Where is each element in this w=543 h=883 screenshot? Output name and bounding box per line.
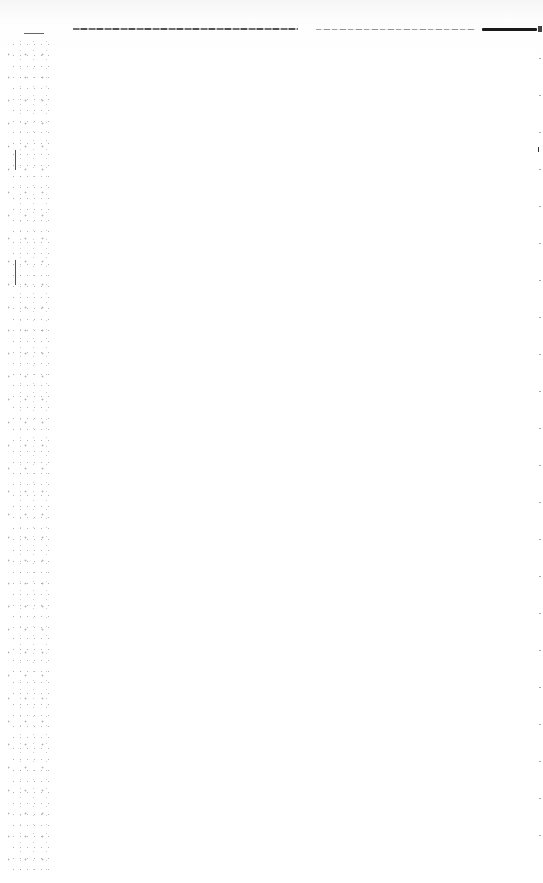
right-edge-scan-noise <box>538 40 542 840</box>
page-body <box>60 40 530 870</box>
header-rule-left <box>73 28 298 30</box>
left-edge-mark <box>15 150 16 170</box>
left-edge-mark <box>15 260 16 285</box>
header-rule-right <box>316 29 476 30</box>
header-rule-heavy-segment <box>482 28 537 31</box>
scanned-page <box>0 0 543 883</box>
right-edge-tick <box>538 147 539 152</box>
page-edge-mark <box>538 26 542 32</box>
left-margin-rule <box>24 33 44 34</box>
